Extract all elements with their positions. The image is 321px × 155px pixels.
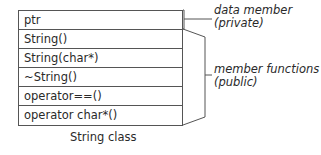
member-functions-access: (public) [214,76,319,89]
data-member-access: (private) [214,17,292,30]
member-functions-note: member functions (public) [214,63,319,89]
data-member-bracket [183,10,184,29]
diagram-caption: String class [70,130,137,144]
data-member-note: data member (private) [214,4,292,30]
member-functions-bracket [183,29,205,125]
